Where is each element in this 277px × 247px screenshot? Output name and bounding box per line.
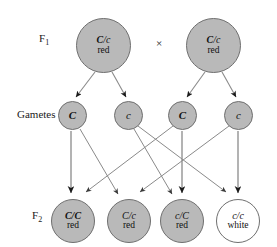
f2-offspring-4-phenotype: white [227,221,248,231]
cross-symbol: × [156,38,162,49]
gamete-2-node: c [114,101,143,130]
gamete-1-node: C [58,101,87,130]
edge-gamete3-to-f2-1 [86,126,173,192]
gamete-1-allele: C [69,110,76,122]
f1-parent-right-node: C/c red [186,18,241,73]
f2-offspring-4-node: c/c white [216,199,260,243]
gamete-3-node: C [168,101,197,130]
edge-f1right-to-gamete3 [187,72,205,97]
f2-row-label: F2 [32,210,42,224]
edge-f1right-to-gamete4 [222,72,236,97]
f2-offspring-1-phenotype: red [67,221,79,231]
f1-row-label: F1 [39,33,49,47]
f2-offspring-2-node: C/c red [107,199,151,243]
gamete-2-allele: c [126,110,131,122]
f2-offspring-3-phenotype: red [176,221,188,231]
f1-parent-left-node: C/c red [76,18,131,73]
f2-offspring-2-phenotype: red [123,221,135,231]
f1-parent-right-phenotype: red [207,46,219,56]
f2-offspring-3-node: c/C red [160,199,204,243]
edge-f1left-to-gamete1 [76,72,95,97]
gametes-row-label: Gametes [17,109,55,120]
gamete-3-allele: C [179,110,186,122]
f1-parent-left-phenotype: red [97,46,109,56]
gamete-4-node: c [224,101,253,130]
edge-gamete4-to-f2-2 [140,126,229,192]
gamete-4-allele: c [236,110,241,122]
punnett-cross-diagram: F1 Gametes F2 × C/c red C/c red C c C c [0,0,277,247]
edge-f1left-to-gamete2 [112,72,126,97]
edge-gamete2-to-f2-3 [134,129,172,194]
f2-offspring-1-node: C/C red [51,199,95,243]
edge-gamete1-to-f2-2 [80,129,118,194]
